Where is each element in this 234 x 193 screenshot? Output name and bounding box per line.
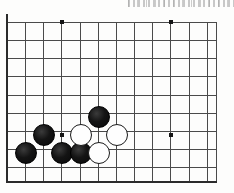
white-stone-3[interactable] (88, 142, 110, 164)
board-gridline-vertical-7 (134, 22, 135, 181)
star-point-center-left (60, 133, 64, 137)
board-edge-left (6, 14, 8, 183)
board-edge-bottom (6, 181, 217, 183)
board-gridline-horizontal-5 (7, 113, 216, 114)
star-point-top-right (169, 20, 173, 24)
white-stone-1[interactable] (70, 124, 92, 146)
board-gridline-vertical-8 (152, 22, 153, 181)
black-stone-2[interactable] (33, 124, 55, 146)
star-point-center-right (169, 133, 173, 137)
go-board[interactable] (0, 0, 234, 193)
star-point-top-left (60, 20, 64, 24)
white-stone-2[interactable] (106, 124, 128, 146)
board-gridline-vertical-6 (116, 22, 117, 181)
board-gridline-horizontal-8 (7, 167, 216, 168)
board-gridline-horizontal-7 (7, 149, 216, 150)
board-gridline-vertical-11 (207, 22, 208, 181)
board-gridline-horizontal-3 (7, 76, 216, 77)
board-gridline-horizontal-1 (7, 40, 216, 41)
board-gridline-horizontal-2 (7, 58, 216, 59)
board-gridline-vertical-right (216, 22, 217, 181)
black-stone-1[interactable] (88, 106, 110, 128)
board-gridline-horizontal-4 (7, 95, 216, 96)
board-gridline-vertical-10 (189, 22, 190, 181)
board-gridline-vertical-2 (43, 22, 44, 181)
board-gridline-horizontal-0 (7, 22, 216, 23)
go-diagram-screen (0, 0, 234, 193)
black-stone-3[interactable] (15, 142, 37, 164)
board-gridline-vertical-9 (170, 22, 171, 181)
